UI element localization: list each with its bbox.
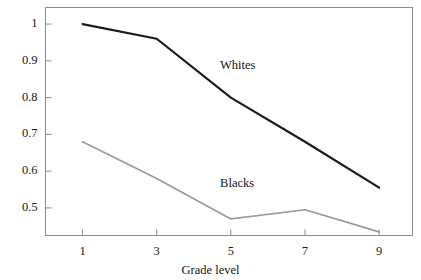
x-tick-label: 5 bbox=[211, 245, 251, 258]
y-tick-label: 0.6 bbox=[0, 164, 38, 177]
y-tick-label: 0.7 bbox=[0, 127, 38, 140]
series-label-blacks: Blacks bbox=[220, 177, 254, 190]
chart-container: 0.50.60.70.80.91 13579 Whites Blacks Gra… bbox=[0, 0, 421, 280]
y-tick-label: 0.9 bbox=[0, 54, 38, 67]
series-label-whites: Whites bbox=[220, 59, 255, 72]
x-tick-label: 1 bbox=[63, 245, 103, 258]
x-tick-label: 3 bbox=[137, 245, 177, 258]
chart-plot-svg bbox=[0, 0, 421, 280]
y-tick-label: 1 bbox=[0, 17, 38, 30]
plot-frame bbox=[46, 8, 413, 236]
x-tick-label: 9 bbox=[359, 245, 399, 258]
y-tick-label: 0.8 bbox=[0, 91, 38, 104]
y-tick-label: 0.5 bbox=[0, 201, 38, 214]
x-tick-label: 7 bbox=[285, 245, 325, 258]
x-axis-title: Grade level bbox=[0, 264, 421, 277]
plot-frame-rect bbox=[46, 8, 413, 236]
